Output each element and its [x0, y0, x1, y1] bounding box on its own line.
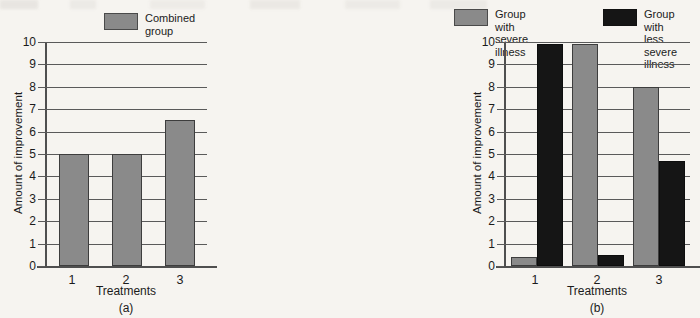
y-tick-mark — [497, 64, 504, 65]
y-tick-mark — [38, 87, 45, 88]
bar-combined-group-1 — [59, 154, 89, 266]
panel-caption-a: (a) — [119, 301, 134, 315]
legend-swatch-icon — [104, 13, 138, 30]
y-tick-mark — [38, 221, 45, 222]
x-tick-label: 1 — [69, 273, 76, 287]
y-tick-mark — [497, 176, 504, 177]
y-tick-label: 4 — [488, 170, 495, 182]
y-axis-title-a: Amount of improvement — [12, 92, 24, 214]
y-tick-label: 9 — [29, 58, 36, 70]
y-tick-label: 1 — [29, 238, 36, 250]
y-tick-label: 8 — [488, 81, 495, 93]
bar-less-severe-illness-1 — [537, 44, 563, 266]
y-tick-label: 0 — [29, 260, 36, 272]
y-tick-label: 10 — [23, 36, 36, 48]
y-axis-title-b: Amount of improvement — [471, 92, 483, 214]
y-tick-mark — [497, 132, 504, 133]
legend-a-combined-group: Combined group — [104, 12, 195, 37]
y-tick-mark — [497, 221, 504, 222]
bar-group — [629, 42, 690, 266]
y-tick-label: 2 — [488, 215, 495, 227]
x-tick-label: 3 — [656, 273, 663, 287]
y-tick-label: 1 — [488, 238, 495, 250]
bar-group — [47, 42, 100, 266]
bar-less-severe-illness-3 — [659, 161, 685, 266]
y-tick-label: 2 — [29, 215, 36, 227]
bar-combined-group-3 — [165, 120, 195, 266]
y-tick-mark — [38, 42, 45, 43]
x-axis-line — [37, 266, 217, 268]
y-tick-label: 0 — [488, 260, 495, 272]
x-axis-title-b: Treatments — [567, 284, 627, 298]
x-tick-label: 1 — [532, 273, 539, 287]
bar-group — [506, 42, 567, 266]
plot-area-a: 012345678910 123 — [45, 42, 207, 266]
y-tick-label: 8 — [29, 81, 36, 93]
y-tick-mark — [497, 266, 504, 267]
plot-area-b: 012345678910 123 — [504, 42, 690, 266]
y-tick-label: 3 — [488, 193, 495, 205]
y-tick-label: 4 — [29, 170, 36, 182]
y-tick-mark — [38, 109, 45, 110]
legend-swatch-icon — [454, 9, 488, 26]
bar-series-b — [506, 42, 690, 266]
y-tick-mark — [497, 199, 504, 200]
y-tick-mark — [38, 266, 45, 267]
y-tick-mark — [497, 154, 504, 155]
panel-caption-b: (b) — [590, 301, 605, 315]
y-tick-label: 3 — [29, 193, 36, 205]
bar-severe-illness-3 — [633, 87, 659, 266]
chart-panel-a: Combined group 012345678910 123 Amount o… — [0, 0, 232, 318]
y-tick-mark — [497, 244, 504, 245]
x-axis-line — [496, 266, 700, 268]
bar-group — [100, 42, 153, 266]
y-tick-label: 10 — [482, 36, 495, 48]
y-tick-label: 9 — [488, 58, 495, 70]
x-tick-label: 3 — [177, 273, 184, 287]
y-tick-mark — [497, 87, 504, 88]
y-tick-label: 7 — [488, 103, 495, 115]
chart-panel-b: Group with severe illness Group with les… — [232, 0, 487, 318]
bar-group — [567, 42, 628, 266]
y-tick-label: 6 — [29, 126, 36, 138]
y-tick-label: 7 — [29, 103, 36, 115]
y-tick-mark — [38, 64, 45, 65]
y-tick-mark — [497, 109, 504, 110]
bar-combined-group-2 — [112, 154, 142, 266]
bar-less-severe-illness-2 — [598, 255, 624, 266]
y-tick-label: 6 — [488, 126, 495, 138]
y-tick-mark — [38, 132, 45, 133]
y-tick-mark — [38, 244, 45, 245]
bar-group — [154, 42, 207, 266]
bar-severe-illness-2 — [572, 44, 598, 266]
y-tick-mark — [38, 199, 45, 200]
y-tick-label: 5 — [488, 148, 495, 160]
y-tick-mark — [497, 42, 504, 43]
y-tick-label: 5 — [29, 148, 36, 160]
bar-series-a — [47, 42, 207, 266]
y-tick-mark — [38, 176, 45, 177]
bar-severe-illness-1 — [511, 257, 537, 266]
legend-label: Combined group — [145, 12, 195, 37]
legend-swatch-icon — [603, 9, 637, 26]
x-axis-title-a: Treatments — [96, 284, 156, 298]
y-tick-mark — [38, 154, 45, 155]
